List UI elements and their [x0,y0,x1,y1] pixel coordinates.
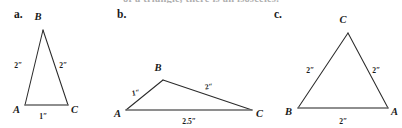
triangle-c-vertex-label-A: A [390,106,398,117]
triangle-c-side-CA [348,33,388,108]
triangle-c-drawing: C A B 2ʺ 2ʺ 2ʺ [0,0,402,128]
triangle-c-length-BC: 2ʺ [306,66,314,75]
triangle-c-length-BA: 2ʺ [339,117,347,126]
triangle-c-vertex-label-C: C [339,14,347,25]
figure-page: of a triangle, there is an isosceles. a.… [0,0,402,128]
triangle-c-length-CA: 2ʺ [372,66,380,75]
triangle-c-vertex-label-B: B [284,106,292,117]
